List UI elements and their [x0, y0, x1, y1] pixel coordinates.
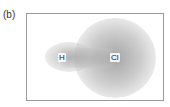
atom-label-cl: Cl	[110, 53, 120, 62]
h-electron-cloud	[45, 42, 93, 72]
panel-label: (b)	[3, 9, 15, 20]
diagram-frame: H Cl	[26, 13, 164, 101]
atom-label-h: H	[58, 53, 66, 62]
